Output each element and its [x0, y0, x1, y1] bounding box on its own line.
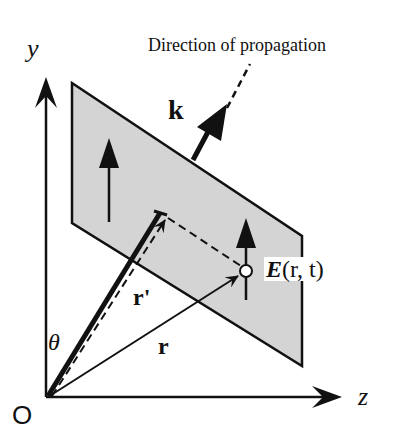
theta-label: θ: [48, 330, 60, 354]
propagation-dashed-line: [227, 64, 250, 108]
k-label: k: [168, 96, 184, 124]
observation-point: [240, 265, 252, 277]
y-axis-label: y: [27, 36, 39, 62]
propagation-label: Direction of propagation: [148, 36, 326, 54]
plane-wave-diagram: Direction of propagation y z O k r' r θ …: [0, 0, 407, 437]
field-E-symbol: E: [266, 256, 282, 282]
origin-label: O: [12, 402, 32, 428]
r-prime-label: r': [133, 285, 150, 309]
z-axis-label: z: [358, 384, 368, 410]
field-label: E(r, t): [264, 257, 326, 281]
z-axis: [46, 386, 342, 408]
r-label: r: [158, 334, 169, 358]
field-args: (r, t): [282, 256, 324, 282]
wavefront-plane: [72, 83, 302, 366]
diagram-graphics: [0, 0, 407, 437]
k-vector-arrow: [193, 104, 227, 160]
